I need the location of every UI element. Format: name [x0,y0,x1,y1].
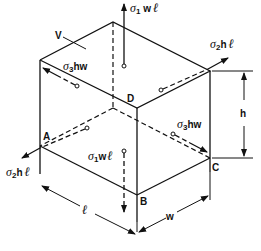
dimension-w: w [137,172,210,232]
vertex-A-label: A [43,131,50,142]
vertex-B-label: B [140,196,147,207]
dimension-w-label: w [165,211,174,222]
sigma1-top-label: σ1 wℓ [130,0,159,16]
sigma3-back-label: σ3hw [63,59,87,74]
vertex-C-label: C [212,162,219,173]
hidden-back-right [113,108,210,158]
sigma3-front-label: σ3hw [177,117,201,132]
sigma2-right-label: σ2hℓ [210,36,234,52]
dimension-h-label: h [240,108,246,119]
block-hidden-edges [40,22,210,158]
diagram-canvas: V D A B C σ1 wℓ σ1wℓ σ2hℓ σ2hℓ [0,0,261,251]
sigma1-bottom-label: σ1wℓ [88,148,113,164]
sigma2-left-label: σ2hℓ [6,164,30,180]
hidden-back-left [40,108,113,146]
stress-block-diagram: V D A B C σ1 wℓ σ1wℓ σ2hℓ σ2hℓ [0,0,261,251]
force-sigma1-top: σ1 wℓ [122,0,159,68]
vertex-D-label: D [127,93,134,104]
dimension-h: h [212,71,253,158]
force-sigma3-back: σ3hw [43,59,87,88]
volume-label: V [55,30,62,41]
dimension-length: ℓ [42,186,135,234]
edge-B-C [137,158,210,195]
block-visible-edges [40,22,210,222]
volume-tick [63,37,86,49]
dimension-length-label: ℓ [82,202,88,217]
force-sigma3-front: σ3hw [171,117,207,152]
